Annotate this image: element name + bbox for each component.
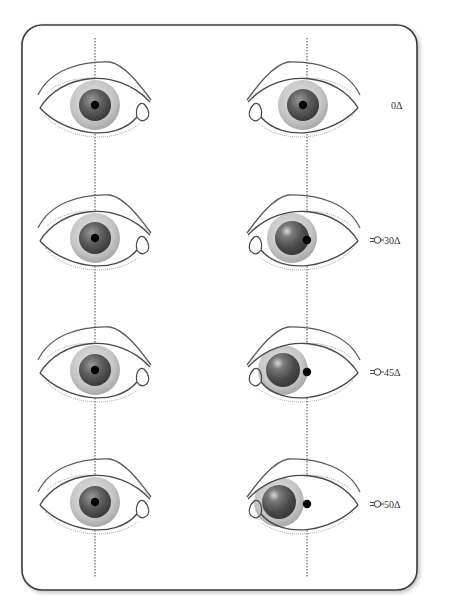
light-reflex (303, 368, 311, 376)
iris-group (70, 477, 120, 527)
iris-group (70, 345, 120, 395)
iris-inner (262, 485, 296, 519)
iris-inner (266, 353, 300, 387)
prism-test-diagram: 0Δ30Δ45Δ50Δ (0, 0, 449, 612)
prism-measurement-label: 45Δ (384, 367, 401, 378)
pupil (91, 498, 99, 506)
prism-measurement-label: 30Δ (384, 235, 401, 246)
iris-group (278, 80, 328, 130)
light-reflex (303, 500, 311, 508)
row-0-label: 0Δ (391, 100, 403, 111)
iris-group (70, 80, 120, 130)
pupil (91, 234, 99, 242)
pupil (91, 101, 99, 109)
prism-measurement-label: 50Δ (384, 499, 401, 510)
pupil (299, 101, 307, 109)
iris-group (70, 213, 120, 263)
pupil (91, 366, 99, 374)
prism-measurement-label: 0Δ (391, 100, 403, 111)
light-reflex (303, 236, 311, 244)
